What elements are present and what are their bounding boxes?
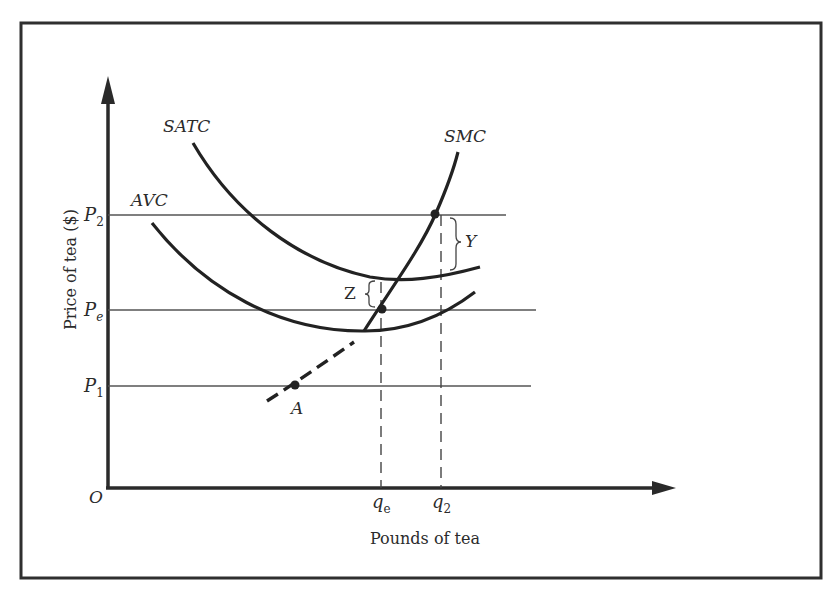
x-axis-title: Pounds of tea: [370, 529, 480, 548]
smc-dashed-extension: [267, 342, 354, 401]
brace-y-icon: [450, 218, 461, 270]
point-a: [291, 381, 300, 390]
point-p2-q2: [431, 210, 440, 219]
diagram-canvas: SATC AVC SMC Y Z A P2 Pe P1 qe q2 O Poun…: [0, 0, 834, 598]
cost-curves-diagram: SATC AVC SMC Y Z A P2 Pe P1 qe q2 O Poun…: [0, 0, 834, 598]
figure-frame: [21, 23, 821, 578]
brace-z-icon: [365, 281, 375, 307]
y-axis-arrow-icon: [101, 76, 115, 104]
label-gap-y: Y: [465, 231, 478, 251]
label-point-a: A: [289, 398, 303, 418]
label-smc: SMC: [444, 126, 486, 146]
point-pe-qe: [378, 305, 387, 314]
label-gap-z: Z: [344, 283, 356, 303]
label-pe: Pe: [83, 299, 103, 324]
x-axis-arrow-icon: [652, 481, 676, 495]
label-origin: O: [89, 487, 103, 507]
label-satc: SATC: [163, 116, 210, 136]
label-q2: q2: [432, 491, 451, 516]
label-p2: P2: [83, 204, 104, 229]
smc-curve: [364, 152, 458, 331]
y-axis-title: Price of tea ($): [61, 209, 80, 330]
label-p1: P1: [83, 375, 104, 400]
label-avc: AVC: [129, 190, 168, 210]
label-qe: qe: [372, 491, 391, 516]
